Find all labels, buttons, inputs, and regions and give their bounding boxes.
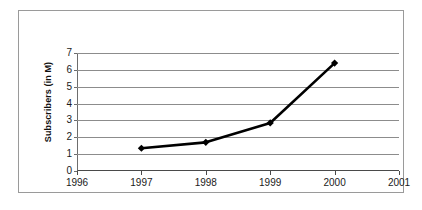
x-tick-mark	[206, 171, 207, 175]
x-tick-mark	[141, 171, 142, 175]
y-tick-label: 5	[66, 82, 72, 92]
y-tick-label: 4	[66, 99, 72, 109]
x-tick-mark	[399, 171, 400, 175]
plot-area: 01234567 199619971998199920002001	[77, 53, 399, 171]
y-tick-label: 1	[66, 149, 72, 159]
series-line	[141, 63, 334, 148]
x-tick-mark	[270, 171, 271, 175]
x-tick-mark	[77, 171, 78, 175]
y-tick-label: 2	[66, 132, 72, 142]
chart-figure: Subscribers (in M) 01234567 199619971998…	[18, 10, 404, 193]
y-tick-label: 3	[66, 115, 72, 125]
x-tick-label: 2001	[388, 178, 410, 188]
y-tick-label: 7	[66, 48, 72, 58]
x-tick-label: 1997	[130, 178, 152, 188]
data-series-line	[77, 53, 399, 171]
x-tick-label: 1998	[195, 178, 217, 188]
x-tick-mark	[335, 171, 336, 175]
data-point-marker	[202, 139, 209, 146]
x-tick-label: 1999	[259, 178, 281, 188]
x-tick-label: 2000	[323, 178, 345, 188]
data-point-marker	[138, 145, 145, 152]
y-tick-label: 0	[66, 166, 72, 176]
y-axis-title: Subscribers (in M)	[41, 43, 55, 161]
x-tick-label: 1996	[66, 178, 88, 188]
y-tick-label: 6	[66, 65, 72, 75]
